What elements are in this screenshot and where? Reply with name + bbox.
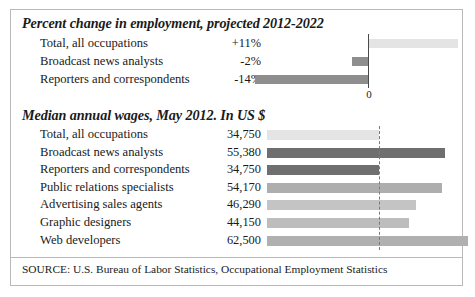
figure-panel: Percent change in employment, projected … xyxy=(10,9,463,286)
chart1-title: Percent change in employment, projected … xyxy=(11,10,462,32)
chart1-row-value: -2% xyxy=(161,52,261,70)
chart1-row: Reporters and correspondents-14% xyxy=(11,70,462,88)
chart1-bar xyxy=(352,57,368,66)
chart2-row-value: 62,500 xyxy=(161,232,261,250)
chart1-zero-axis xyxy=(368,34,369,88)
chart1-zero-label: 0 xyxy=(363,89,375,100)
chart2-bar xyxy=(267,183,442,193)
chart2-bar xyxy=(267,218,409,228)
chart2-rows: Total, all occupations34,750Broadcast ne… xyxy=(11,126,462,249)
chart2-row-label: Public relations specialists xyxy=(40,179,174,197)
chart1-row-label: Broadcast news analysts xyxy=(40,52,163,70)
chart2-bar xyxy=(267,148,445,158)
chart2-row: Public relations specialists54,170 xyxy=(11,179,462,197)
chart1-bar xyxy=(369,39,458,48)
chart1-rows: Total, all occupations+11%Broadcast news… xyxy=(11,34,462,88)
chart2-row-value: 34,750 xyxy=(161,126,261,144)
chart2-row: Advertising sales agents46,290 xyxy=(11,196,462,214)
chart2-row-value: 44,150 xyxy=(161,214,261,232)
chart2-reference-line xyxy=(379,126,380,250)
chart2-row-label: Web developers xyxy=(40,232,120,250)
chart2-row: Graphic designers44,150 xyxy=(11,214,462,232)
chart2-row-value: 54,170 xyxy=(161,179,261,197)
chart2-bar xyxy=(267,130,379,140)
chart2-row: Total, all occupations34,750 xyxy=(11,126,462,144)
chart2-row-value: 55,380 xyxy=(161,144,261,162)
chart2-bar xyxy=(267,165,379,175)
chart2-bar xyxy=(267,200,416,210)
source-divider xyxy=(11,257,462,258)
chart-median-wages: Median annual wages, May 2012. In US $ T… xyxy=(11,103,462,249)
chart1-row: Broadcast news analysts-2% xyxy=(11,52,462,70)
chart2-row-label: Total, all occupations xyxy=(40,126,148,144)
chart2-row: Broadcast news analysts55,380 xyxy=(11,144,462,162)
chart1-row-value: -14% xyxy=(161,70,261,88)
source-note: SOURCE: U.S. Bureau of Labor Statistics,… xyxy=(22,263,454,275)
chart-percent-change: Percent change in employment, projected … xyxy=(11,10,462,88)
chart2-row: Reporters and correspondents34,750 xyxy=(11,161,462,179)
chart2-row-value: 46,290 xyxy=(161,196,261,214)
chart2-row: Web developers62,500 xyxy=(11,232,462,250)
chart2-row-label: Advertising sales agents xyxy=(40,196,162,214)
chart2-title: Median annual wages, May 2012. In US $ xyxy=(11,103,462,124)
chart2-bar xyxy=(267,236,468,246)
chart1-row-label: Total, all occupations xyxy=(40,34,148,52)
chart2-row-label: Broadcast news analysts xyxy=(40,144,163,162)
chart1-bar xyxy=(255,75,368,84)
chart1-row: Total, all occupations+11% xyxy=(11,34,462,52)
chart2-row-value: 34,750 xyxy=(161,161,261,179)
chart2-row-label: Graphic designers xyxy=(40,214,131,232)
chart1-row-value: +11% xyxy=(161,34,261,52)
